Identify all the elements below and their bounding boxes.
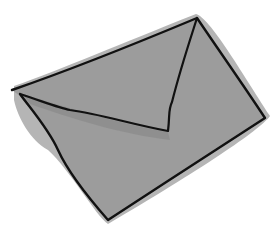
envelope-illustration: Hand-drawn envelope sketch: [0, 0, 276, 230]
envelope-body: [12, 18, 265, 220]
envelope-icon: [0, 0, 276, 230]
